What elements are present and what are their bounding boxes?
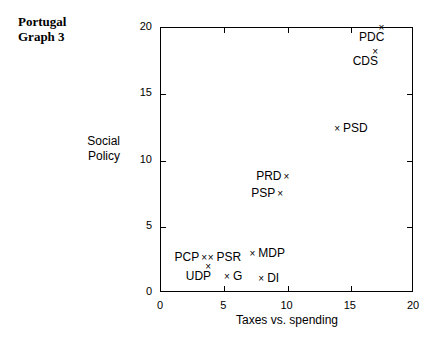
x-tick-label: 0 [145,299,175,311]
point-label: PSD [343,122,368,134]
y-tick-mark [407,94,412,95]
y-tick-label: 15 [122,86,152,98]
data-point: ×DI [261,279,262,280]
x-tick-mark [224,286,225,291]
page-title: Portugal Graph 3 [18,14,66,44]
data-point: ×PDC [381,28,382,29]
x-tick-label: 10 [272,299,302,311]
point-label: PSR [217,251,242,263]
point-marker-x-icon: × [248,248,256,259]
data-point: ×PCP [204,258,205,259]
y-tick-label: 5 [122,219,152,231]
data-point: ×MDP [252,254,253,255]
data-point: ×UDP [208,267,209,268]
point-label: DI [267,272,279,284]
y-tick-mark [407,161,412,162]
point-label: PCP [175,251,200,263]
point-marker-x-icon: × [257,273,265,284]
data-point: ×PRD [287,177,288,178]
data-point: ×PSD [337,129,338,130]
x-tick-label: 20 [398,299,428,311]
point-label: CDS [353,55,378,67]
x-axis-label: Taxes vs. spending [160,313,414,327]
x-tick-mark [288,28,289,33]
x-tick-label: 15 [335,299,365,311]
x-tick-mark [224,28,225,33]
y-tick-mark [161,227,166,228]
x-tick-mark [351,28,352,33]
data-point: ×CDS [375,52,376,53]
x-tick-mark [351,286,352,291]
y-tick-mark [161,161,166,162]
y-tick-mark [407,227,412,228]
x-tick-label: 5 [208,299,238,311]
y-tick-label: 20 [122,20,152,32]
y-tick-label: 0 [122,285,152,297]
chart-page: Portugal Graph 3 Social Policy Taxes vs.… [0,0,438,337]
y-axis-label: Social Policy [40,134,120,164]
point-label: UDP [186,270,211,282]
point-marker-x-icon: × [283,171,291,182]
point-label: PSP [251,187,275,199]
y-tick-label: 10 [122,153,152,165]
x-tick-mark [288,286,289,291]
point-marker-x-icon: × [223,271,231,282]
point-label: PRD [256,170,281,182]
y-tick-mark [161,94,166,95]
point-label: MDP [258,247,285,259]
point-label: PDC [359,31,384,43]
point-label: G [233,270,242,282]
data-point: ×PSR [211,258,212,259]
data-point: ×G [227,277,228,278]
point-marker-x-icon: × [333,123,341,134]
point-marker-x-icon: × [276,188,284,199]
data-point: ×PSP [280,194,281,195]
